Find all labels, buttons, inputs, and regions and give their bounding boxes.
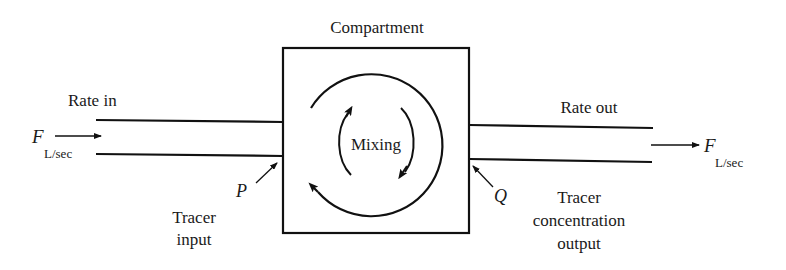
- outlet-flow-unit: L/sec: [715, 155, 743, 170]
- rate-in-label: Rate in: [68, 91, 117, 110]
- tracer-input-label-line1: Tracer: [172, 208, 216, 227]
- tracer-input-pointer-icon: [256, 163, 277, 183]
- outlet-pipe-top: [469, 125, 653, 128]
- compartment-diagram: Compartment Mixing Rate in F L/sec P Tra…: [0, 0, 786, 270]
- tracer-output-label-line2: concentration: [533, 211, 626, 230]
- mixing-label: Mixing: [351, 135, 402, 154]
- tracer-output-label-line3: output: [557, 234, 601, 253]
- compartment-title: Compartment: [330, 18, 424, 37]
- tracer-output-pointer-icon: [473, 166, 493, 187]
- tracer-output-label-line1: Tracer: [557, 188, 601, 207]
- outlet-pipe-bottom: [469, 159, 652, 162]
- outlet-flow-symbol: F: [703, 135, 716, 156]
- inner-right-arrow-icon: [401, 108, 414, 175]
- inlet-pipe-top: [96, 120, 283, 122]
- inlet-flow-unit: L/sec: [44, 146, 72, 161]
- inlet-flow-symbol: F: [31, 126, 44, 147]
- tracer-input-label-line2: input: [177, 230, 212, 249]
- tracer-input-symbol: P: [235, 181, 247, 201]
- tracer-output-symbol: Q: [494, 186, 507, 206]
- rate-out-label: Rate out: [560, 98, 617, 117]
- inner-left-arrow-icon: [339, 110, 351, 175]
- inlet-pipe-bottom: [96, 154, 283, 156]
